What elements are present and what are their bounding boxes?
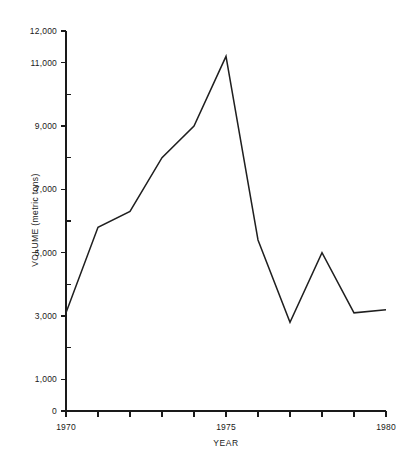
y-tick-label: 5,000 [35,248,57,258]
y-tick-label: 9,000 [35,121,57,131]
y-tick-label: 1,000 [35,374,57,384]
y-tick-label: 12,000 [30,26,57,36]
y-tick-label: 11,000 [30,58,57,68]
y-tick-label: 3,000 [35,311,57,321]
x-axis-tick-labels: 197019751980 [56,422,396,432]
x-axis-title: YEAR [213,438,239,448]
line-chart-figure: VOLUME (metric tons) 12,00011,0009,0007,… [0,0,407,466]
y-tick-label: 7,000 [35,184,57,194]
x-tick-label: 1975 [216,422,236,432]
y-tick-label: 0 [52,406,57,416]
x-tick-label: 1980 [376,422,396,432]
axis-lines [66,31,386,411]
data-series-line [66,56,386,322]
chart-canvas: VOLUME (metric tons) 12,00011,0009,0007,… [0,0,407,466]
x-tick-label: 1970 [56,422,76,432]
x-axis-ticks [66,411,386,417]
